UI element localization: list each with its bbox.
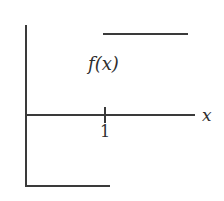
y-axis-line (25, 25, 27, 187)
x-axis-line (25, 114, 195, 116)
function-segment-upper (103, 33, 188, 35)
function-label: f(x) (88, 55, 119, 73)
function-graph-figure: f(x) x 1 (0, 0, 224, 201)
x-tick-label-1: 1 (100, 124, 110, 140)
function-segment-lower (25, 185, 110, 187)
x-axis-tick-1 (104, 107, 106, 123)
x-axis-label: x (202, 107, 212, 124)
